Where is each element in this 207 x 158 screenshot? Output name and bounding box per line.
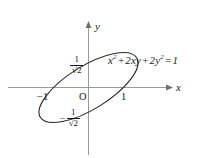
x-axis-arrowhead xyxy=(166,85,173,91)
x-axis-label: x xyxy=(176,82,181,93)
y-tick-negative-one-over-root-two-label: − 1 √2 xyxy=(60,108,80,129)
y-axis-label: y xyxy=(95,21,100,32)
x-tick-one-label: 1 xyxy=(121,92,126,103)
equation-equals-sign: = xyxy=(164,54,172,66)
equation-plus-2: + xyxy=(141,54,149,66)
equation-right-hand-side: 1 xyxy=(173,54,179,66)
origin-label: O xyxy=(79,92,87,103)
y-tick-one-over-root-two-label: 1 √2 xyxy=(70,55,83,76)
negative-sign: − xyxy=(60,113,66,124)
fraction-denominator: √2 xyxy=(67,119,80,128)
fraction-numerator: 1 xyxy=(70,55,83,64)
equation-term2: 2xy xyxy=(125,54,141,66)
fraction-numerator: 1 xyxy=(67,108,80,117)
math-figure-ellipse: y x O −1 1 1 √2 − 1 √2 x2+2xy+2y2=1 xyxy=(0,0,207,158)
equation-annotation: x2+2xy+2y2=1 xyxy=(108,54,178,66)
fraction-group: 1 √2 xyxy=(67,108,80,129)
plot-canvas xyxy=(0,0,207,158)
x-tick-minus-one-label: −1 xyxy=(37,92,48,103)
y-axis-arrowhead xyxy=(86,21,92,28)
fraction-denominator: √2 xyxy=(70,66,83,75)
